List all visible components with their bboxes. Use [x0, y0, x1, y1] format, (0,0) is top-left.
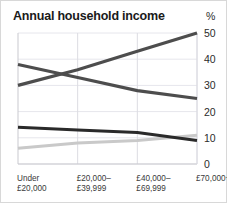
y-tick-label: 20	[204, 106, 216, 117]
x-tick-label: £40,000–£69,999	[136, 174, 170, 194]
plot-area: 01020304050 Under£20,000£20,000–£39,999£…	[1, 1, 227, 203]
y-tick-label: 10	[204, 133, 216, 144]
x-tick-label: £20,000–£39,999	[77, 174, 111, 194]
series-paths	[18, 33, 197, 148]
x-tick-label-line: £39,999	[77, 184, 111, 194]
x-tick-label-line: £20,000	[17, 184, 47, 194]
axis-frame	[18, 33, 197, 164]
x-tick-label-line: Under	[17, 174, 47, 184]
line-chart-svg	[1, 1, 227, 203]
chart-card: Annual household income % 01020304050 Un…	[0, 0, 227, 203]
x-tick-label-line: £70,000+	[196, 174, 227, 184]
y-tick-label: 30	[204, 80, 216, 91]
y-tick-label: 50	[204, 28, 216, 39]
x-tick-label-line: £69,999	[136, 184, 170, 194]
gridlines	[18, 33, 197, 164]
y-tick-label: 0	[204, 159, 210, 170]
x-tick-label: Under£20,000	[17, 174, 47, 194]
x-tick-label: £70,000+	[196, 174, 227, 184]
y-tick-label: 40	[204, 54, 216, 65]
x-tick-label-line: £20,000–	[77, 174, 111, 184]
x-tick-label-line: £40,000–	[136, 174, 170, 184]
line-series-falling	[18, 64, 197, 98]
